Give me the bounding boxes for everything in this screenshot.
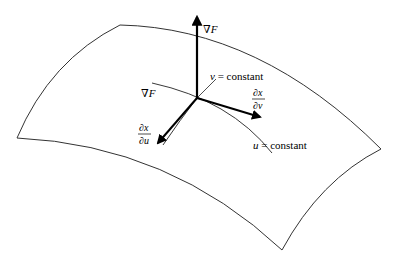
surface-patch	[17, 25, 381, 250]
gradient-label-left: ∇F	[141, 87, 156, 99]
svg-text:∂x: ∂x	[139, 122, 149, 133]
svg-text:∂v: ∂v	[253, 100, 263, 111]
gradient-label-top: ∇F	[203, 23, 218, 35]
svg-text:∂x: ∂x	[253, 87, 263, 98]
dxdu-tangent-vector	[158, 98, 197, 143]
diagram-canvas: ∇F v = constant ∇F ∂x ∂v ∂x ∂u u = const…	[0, 0, 395, 266]
dxdu-label: ∂x ∂u	[138, 122, 151, 146]
surface-diagram: ∇F v = constant ∇F ∂x ∂v ∂x ∂u u = const…	[0, 0, 395, 266]
dxdv-tangent-vector	[197, 98, 260, 117]
v-constant-label: v = constant	[210, 70, 263, 82]
dxdv-label: ∂x ∂v	[252, 87, 265, 111]
svg-text:∂u: ∂u	[139, 135, 149, 146]
u-constant-label: u = constant	[253, 139, 307, 151]
